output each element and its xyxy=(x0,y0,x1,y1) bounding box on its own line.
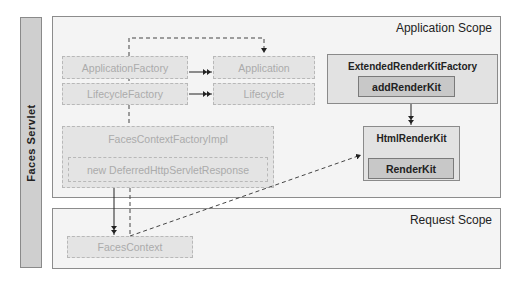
dashed-factory-to-application xyxy=(129,38,264,56)
connector-arrows xyxy=(0,0,521,283)
